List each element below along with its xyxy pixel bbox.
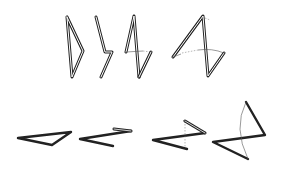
figure-7-flat-folded — [153, 121, 205, 149]
figure-6-flat-zigzag — [80, 129, 131, 146]
figure-8-flat-twisted — [213, 102, 265, 159]
figure-4-twisted — [173, 16, 224, 76]
figure-2-zigzag — [96, 17, 112, 77]
figure-5-flat-triangle — [18, 132, 71, 145]
figure-1-triangle — [67, 17, 83, 77]
wire-diagram — [0, 0, 284, 175]
figure-3-folded — [126, 16, 151, 77]
